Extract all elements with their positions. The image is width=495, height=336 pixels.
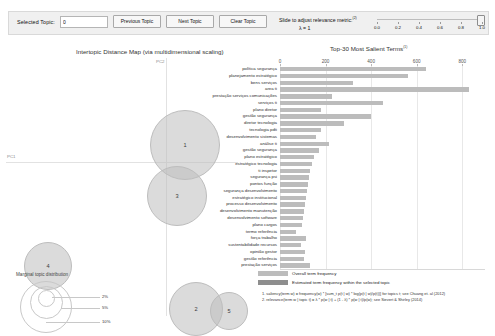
term-label[interactable]: segurança psi <box>250 174 277 179</box>
bar-overall-frequency <box>280 189 307 193</box>
term-label[interactable]: estratégico tecnologia <box>235 161 277 166</box>
term-label[interactable]: segurança desenvolvimento <box>223 188 277 193</box>
barchart-row[interactable]: opinião gestor <box>280 250 485 254</box>
mds-panel-title: Intertopic Distance Map (via multidimens… <box>76 48 224 55</box>
barchart-row[interactable]: segurança desenvolvimento <box>280 189 485 193</box>
topic-circle-3[interactable]: 3 <box>147 166 207 226</box>
barchart-row[interactable]: gestão segurança <box>280 148 485 152</box>
next-topic-button[interactable]: Next Topic <box>166 15 214 28</box>
slider-caption: Slide to adjust relevance metric:(2) <box>279 16 357 23</box>
relevance-slider-track[interactable] <box>377 19 482 20</box>
bar-overall-frequency <box>280 257 304 261</box>
barchart-row[interactable]: diretor tecnologia <box>280 121 485 125</box>
barchart-row[interactable]: area ti <box>280 87 485 91</box>
barchart-xtick-label-0: 0 <box>279 59 282 64</box>
barchart-title-superscript: (1) <box>403 45 407 49</box>
topic-circle-5[interactable]: 5 <box>210 292 248 330</box>
legend-label-overall: Overall term frequency <box>292 271 336 276</box>
barchart-row[interactable]: análise ti <box>280 142 485 146</box>
term-label[interactable]: opinião gestor <box>250 249 277 254</box>
bar-overall-frequency <box>280 216 303 220</box>
term-label[interactable]: pontos função <box>250 181 277 186</box>
term-label[interactable]: diretor tecnologia <box>244 120 277 125</box>
term-label[interactable]: política segurança <box>242 66 277 71</box>
barchart-row[interactable]: serviços ti <box>280 101 485 105</box>
barchart-xtick-mark-400 <box>371 64 372 66</box>
marginal-leader-10pct <box>46 322 100 323</box>
term-label[interactable]: plano diretor <box>253 107 277 112</box>
term-label[interactable]: bens serviços <box>251 80 277 85</box>
term-label[interactable]: serviços ti <box>258 100 277 105</box>
term-label[interactable]: prestação serviços <box>241 262 277 267</box>
previous-topic-button[interactable]: Previous Topic <box>113 15 161 28</box>
slider-tick-mark-0.6 <box>440 22 441 24</box>
term-label[interactable]: plano estratégico <box>244 154 277 159</box>
barchart-row[interactable]: planejamento estratégico <box>280 74 485 78</box>
barchart-row[interactable]: prestação serviços comunicações <box>280 94 485 98</box>
selected-topic-input[interactable] <box>60 16 108 28</box>
slider-tick-label-0.0: 0.0 <box>374 25 380 30</box>
clear-topic-button[interactable]: Clear Topic <box>219 15 267 28</box>
barchart-row[interactable]: bens serviços <box>280 81 485 85</box>
barchart-row[interactable]: força trabalho <box>280 236 485 240</box>
term-label[interactable]: análise ti <box>260 141 277 146</box>
barchart-row[interactable]: desenvolvimento sistemas <box>280 135 485 139</box>
term-label[interactable]: gestão segurança <box>243 147 277 152</box>
term-label[interactable]: tecnologia pdti <box>249 127 277 132</box>
marginal-leader-5pct <box>61 308 100 309</box>
term-label[interactable]: plano cargos <box>252 222 277 227</box>
term-label[interactable]: gestão referência <box>244 256 277 261</box>
relevance-slider-ticks: 0.00.20.40.60.81.0 <box>377 22 485 33</box>
barchart-row[interactable]: plano cargos <box>280 223 485 227</box>
barchart-legend: Overall term frequency Estimated term fr… <box>258 270 490 288</box>
barchart-row[interactable]: pontos função <box>280 182 485 186</box>
footnote-relevance: 2. relevance(term w | topic t) = λ * p(w… <box>262 297 492 303</box>
barchart-row[interactable]: estratégico institucional <box>280 196 485 200</box>
slider-tick-mark-0.8 <box>461 22 462 24</box>
barchart-row[interactable]: estratégico tecnologia <box>280 162 485 166</box>
barchart-xtick-mark-600 <box>417 64 418 66</box>
term-label[interactable]: desenvolvimento sistemas <box>227 134 277 139</box>
barchart-row[interactable]: prestação serviços <box>280 263 485 267</box>
bar-overall-frequency <box>280 169 310 173</box>
bar-overall-frequency <box>280 114 371 118</box>
barchart-row[interactable]: sustentabilidade recursos <box>280 243 485 247</box>
barchart-row[interactable]: plano diretor <box>280 108 485 112</box>
term-label[interactable]: desenvolvimento manutenção <box>220 208 277 213</box>
footnotes: 1. saliency(term w) = frequency(w) * [su… <box>262 291 492 303</box>
bar-overall-frequency <box>280 142 329 146</box>
bar-overall-frequency <box>280 67 426 71</box>
control-toolbar: Selected Topic: Previous Topic Next Topi… <box>8 11 489 35</box>
barchart-row[interactable]: plano estratégico <box>280 155 485 159</box>
barchart-row[interactable]: tecnologia pdti <box>280 128 485 132</box>
marginal-ring-label-10pct: 10% <box>102 319 110 324</box>
term-label[interactable]: area ti <box>265 86 277 91</box>
barchart-row[interactable]: desenvolvimento software <box>280 216 485 220</box>
term-label[interactable]: gestão segurança <box>243 113 277 118</box>
term-label[interactable]: desenvolvimento software <box>227 215 277 220</box>
barchart-xtick-label-400: 400 <box>367 59 375 64</box>
term-label[interactable]: ti inspetor <box>258 168 277 173</box>
term-label[interactable]: processo desenvolvimento <box>226 201 277 206</box>
term-label[interactable]: prestação serviços comunicações <box>213 93 277 98</box>
mds-axis-x-label: PC1 <box>7 154 16 159</box>
term-label[interactable]: planejamento estratégico <box>229 73 277 78</box>
term-label[interactable]: sustentabilidade recursos <box>228 242 277 247</box>
bar-overall-frequency <box>280 202 305 206</box>
bar-overall-frequency <box>280 101 383 105</box>
barchart-row[interactable]: política segurança <box>280 67 485 71</box>
barchart-row[interactable]: desenvolvimento manutenção <box>280 209 485 213</box>
barchart-row[interactable]: segurança psi <box>280 175 485 179</box>
topic-controls: Selected Topic: Previous Topic Next Topi… <box>17 15 267 28</box>
term-label[interactable]: força trabalho <box>251 235 277 240</box>
mds-axis-y-label: PC2 <box>156 59 165 64</box>
barchart-row[interactable]: gestão referência <box>280 257 485 261</box>
barchart-row[interactable]: termo referência <box>280 230 485 234</box>
barchart-xtick-mark-0 <box>280 64 281 66</box>
term-label[interactable]: termo referência <box>246 229 277 234</box>
topic-circle-label-5: 5 <box>211 293 247 329</box>
barchart-row[interactable]: gestão segurança <box>280 114 485 118</box>
term-label[interactable]: estratégico institucional <box>232 195 277 200</box>
barchart-row[interactable]: processo desenvolvimento <box>280 202 485 206</box>
barchart-row[interactable]: ti inspetor <box>280 169 485 173</box>
